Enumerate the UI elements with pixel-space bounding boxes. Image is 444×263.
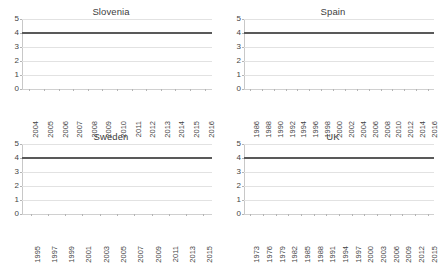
gridline [244,61,434,62]
gridline [22,19,212,20]
gridline [22,144,212,145]
chart-title-uk: UK [222,131,444,142]
gridline [22,61,212,62]
y-axis-label: 1 [15,196,19,204]
x-axis-label: 2000 [367,246,375,263]
x-axis-label: 1995 [34,246,42,263]
y-tick-mark [20,186,22,187]
y-tick-mark [242,200,244,201]
gridline [22,200,212,201]
y-axis-label: 2 [237,57,241,65]
y-axis-label: 5 [237,140,241,148]
y-tick-mark [242,172,244,173]
x-axis-label: 1985 [304,246,312,263]
y-tick-mark [20,61,22,62]
y-axis-label: 4 [237,29,241,37]
plot-area-spain: 543210 [244,19,434,89]
gridline [244,186,434,187]
gridline [22,47,212,48]
y-axis-label: 5 [15,15,19,23]
x-axis-label: 1979 [279,246,287,263]
x-axis-labels-slovenia: 2004200520062007200820092010201120122013… [22,91,212,125]
plot-area-uk: 543210 [244,144,434,214]
y-tick-mark [242,89,244,90]
gridline [244,89,434,90]
chart-panel-uk: UK 543210 197319761979198219851988199119… [222,125,444,250]
y-axis-label: 3 [237,168,241,176]
y-tick-mark [20,172,22,173]
y-tick-mark [20,214,22,215]
y-axis-label: 4 [15,154,19,162]
y-axis-label: 1 [15,71,19,79]
y-tick-mark [242,75,244,76]
x-axis-label: 1973 [253,246,261,263]
x-axis-label: 2003 [103,246,111,263]
x-axis-label: 2011 [172,246,180,262]
x-axis-label: 1999 [68,246,76,263]
x-axis-label: 2005 [120,246,128,263]
chart-title-slovenia: Slovenia [0,6,222,17]
gridline [244,144,434,145]
x-axis-label: 2001 [85,246,93,263]
plot-area-sweden: 543210 [22,144,212,214]
x-axis-label: 1982 [291,246,299,263]
y-tick-mark [20,200,22,201]
y-tick-mark [20,75,22,76]
x-axis-label: 2009 [155,246,163,263]
y-axis-label: 1 [237,196,241,204]
data-series-line [244,32,434,33]
plot-area-slovenia: 543210 [22,19,212,89]
x-axis-label: 1988 [317,246,325,263]
x-axis-labels-spain: 1986198819901992199419961998200020022004… [244,91,434,125]
x-axis-label: 1997 [355,246,363,263]
y-tick-mark [20,19,22,20]
data-series-line [22,157,212,158]
chart-panel-spain: Spain 543210 198619881990199219941996199… [222,0,444,125]
y-axis-label: 0 [237,210,241,218]
y-tick-mark [20,47,22,48]
gridline [244,200,434,201]
x-axis-label: 2012 [418,246,426,263]
gridline [22,172,212,173]
y-tick-mark [242,19,244,20]
y-axis-label: 3 [237,43,241,51]
y-axis-label: 4 [15,29,19,37]
y-tick-mark [242,144,244,145]
y-axis-label: 2 [15,57,19,65]
y-tick-mark [242,214,244,215]
y-axis-label: 5 [237,15,241,23]
y-axis-label: 1 [237,71,241,79]
x-axis-label: 2013 [189,246,197,263]
x-axis-label: 1997 [51,246,59,263]
x-axis-label: 1994 [342,246,350,263]
chart-panel-sweden: Sweden 543210 19951997199920012003200520… [0,125,222,250]
x-axis-label: 1991 [329,246,337,263]
y-tick-mark [242,61,244,62]
y-tick-mark [242,186,244,187]
chart-title-spain: Spain [222,6,444,17]
y-axis-line [244,144,245,214]
y-axis-label: 2 [237,182,241,190]
y-axis-label: 2 [15,182,19,190]
x-axis-label: 2009 [405,246,413,263]
y-axis-line [22,19,23,89]
y-axis-line [244,19,245,89]
data-series-line [244,157,434,158]
y-axis-label: 4 [237,154,241,162]
y-axis-label: 0 [15,210,19,218]
y-axis-label: 3 [15,168,19,176]
x-axis-label: 2007 [137,246,145,263]
data-series-line [22,32,212,33]
y-tick-mark [242,47,244,48]
chart-panel-slovenia: Slovenia 543210 200420052006200720082009… [0,0,222,125]
x-axis-label: 2015 [431,246,439,263]
gridline [244,75,434,76]
y-axis-label: 3 [15,43,19,51]
x-axis-label: 2003 [380,246,388,263]
x-axis-label: 1976 [266,246,274,263]
gridline [22,75,212,76]
y-axis-label: 0 [15,85,19,93]
chart-title-sweden: Sweden [0,131,222,142]
y-axis-label: 0 [237,85,241,93]
y-tick-mark [20,144,22,145]
